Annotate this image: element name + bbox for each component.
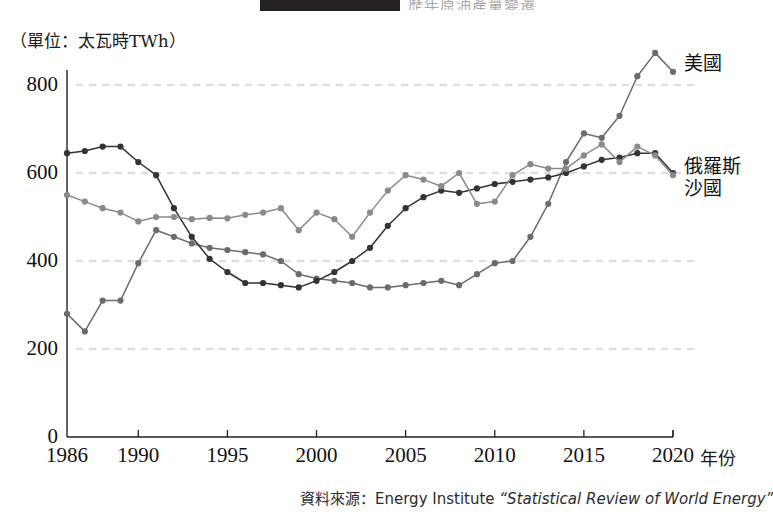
data-point (135, 159, 141, 165)
data-point (313, 278, 319, 284)
data-point (206, 245, 212, 251)
data-point (456, 170, 462, 176)
data-point (278, 282, 284, 288)
data-point (189, 234, 195, 240)
data-point (403, 205, 409, 211)
data-point (581, 163, 587, 169)
data-point (385, 188, 391, 194)
x-tick-label-2020: 2020 (638, 443, 708, 468)
data-point (224, 247, 230, 253)
data-point (367, 284, 373, 290)
data-point (367, 210, 373, 216)
data-point (581, 152, 587, 158)
data-point (563, 166, 569, 172)
data-point (82, 199, 88, 205)
y-tick-label-200: 200 (6, 336, 58, 361)
series-label-2: 沙國 (684, 173, 722, 200)
source-title: “Statistical Review of World Energy” (499, 490, 773, 508)
data-point (420, 177, 426, 183)
data-point (171, 205, 177, 211)
data-point (82, 328, 88, 334)
data-point (456, 190, 462, 196)
data-point (403, 172, 409, 178)
data-point (545, 166, 551, 172)
data-point (224, 215, 230, 221)
data-point (117, 144, 123, 150)
data-point (545, 174, 551, 180)
y-tick-label-800: 800 (6, 72, 58, 97)
data-point (331, 278, 337, 284)
data-point (100, 205, 106, 211)
data-point (509, 258, 515, 264)
data-point (100, 298, 106, 304)
data-point (331, 216, 337, 222)
x-tick-label-1986: 1986 (32, 443, 102, 468)
data-point (652, 50, 658, 56)
data-point (599, 157, 605, 163)
data-point (64, 150, 70, 156)
data-point (385, 284, 391, 290)
data-point (260, 210, 266, 216)
data-point (420, 194, 426, 200)
data-point (242, 280, 248, 286)
data-point (64, 311, 70, 317)
data-point (634, 73, 640, 79)
series-label-0: 美國 (684, 48, 722, 75)
x-tick-label-2000: 2000 (282, 443, 352, 468)
data-point (474, 271, 480, 277)
data-point (153, 172, 159, 178)
data-point (492, 199, 498, 205)
data-point (492, 260, 498, 266)
data-point (171, 234, 177, 240)
source-note: 資料來源：Energy Institute “Statistical Revie… (300, 487, 773, 508)
x-tick-label-2005: 2005 (371, 443, 441, 468)
series-line-2 (67, 144, 673, 236)
data-point (313, 210, 319, 216)
data-point (135, 218, 141, 224)
data-point (670, 69, 676, 75)
data-point (206, 256, 212, 262)
data-point (599, 135, 605, 141)
data-point (509, 172, 515, 178)
data-point (135, 260, 141, 266)
data-point (420, 280, 426, 286)
data-point (527, 234, 533, 240)
data-point (153, 214, 159, 220)
data-point (670, 172, 676, 178)
data-point (492, 181, 498, 187)
y-tick-label-600: 600 (6, 160, 58, 185)
source-prefix: 資料來源：Energy Institute (300, 490, 499, 508)
data-point (82, 148, 88, 154)
x-tick-label-2015: 2015 (549, 443, 619, 468)
data-point (242, 212, 248, 218)
data-point (403, 282, 409, 288)
x-tick-label-2010: 2010 (460, 443, 530, 468)
data-point (385, 223, 391, 229)
x-tick-label-1990: 1990 (103, 443, 173, 468)
data-point (545, 201, 551, 207)
data-point (224, 269, 230, 275)
data-point (438, 278, 444, 284)
data-point (474, 185, 480, 191)
data-point (64, 192, 70, 198)
data-point (563, 159, 569, 165)
data-point (296, 227, 302, 233)
data-point (634, 150, 640, 156)
data-point (438, 183, 444, 189)
data-point (634, 144, 640, 150)
data-point (189, 216, 195, 222)
data-point (474, 201, 480, 207)
data-point (456, 282, 462, 288)
y-tick-label-400: 400 (6, 248, 58, 273)
data-point (260, 251, 266, 257)
data-point (527, 177, 533, 183)
data-point (349, 234, 355, 240)
data-point (260, 280, 266, 286)
data-point (206, 215, 212, 221)
x-axis-title: 年份 (700, 444, 736, 470)
data-point (527, 161, 533, 167)
data-point (349, 258, 355, 264)
data-point (278, 258, 284, 264)
data-point (652, 152, 658, 158)
data-point (117, 298, 123, 304)
